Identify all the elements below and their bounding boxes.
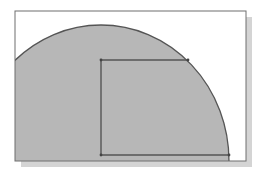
vertex-point — [187, 59, 190, 62]
vertex-point — [228, 154, 231, 157]
sketch-svg — [0, 0, 264, 186]
vertex-point — [100, 59, 103, 62]
drawing-canvas — [0, 0, 264, 186]
vertex-point — [100, 154, 103, 157]
